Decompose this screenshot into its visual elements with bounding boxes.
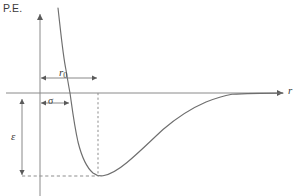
r0-subscript: 0 <box>63 71 67 80</box>
diagram-canvas <box>0 0 305 196</box>
potential-energy-diagram: P.E. r r0 σ ε <box>0 0 305 196</box>
potential-energy-curve <box>58 8 283 176</box>
separation-axis-label: r <box>288 84 292 96</box>
r0-dimension-label: r0 <box>59 66 67 80</box>
sigma-dimension-label: σ <box>48 95 53 106</box>
epsilon-dimension-label: ε <box>11 130 15 142</box>
potential-energy-axis-label: P.E. <box>3 2 22 14</box>
